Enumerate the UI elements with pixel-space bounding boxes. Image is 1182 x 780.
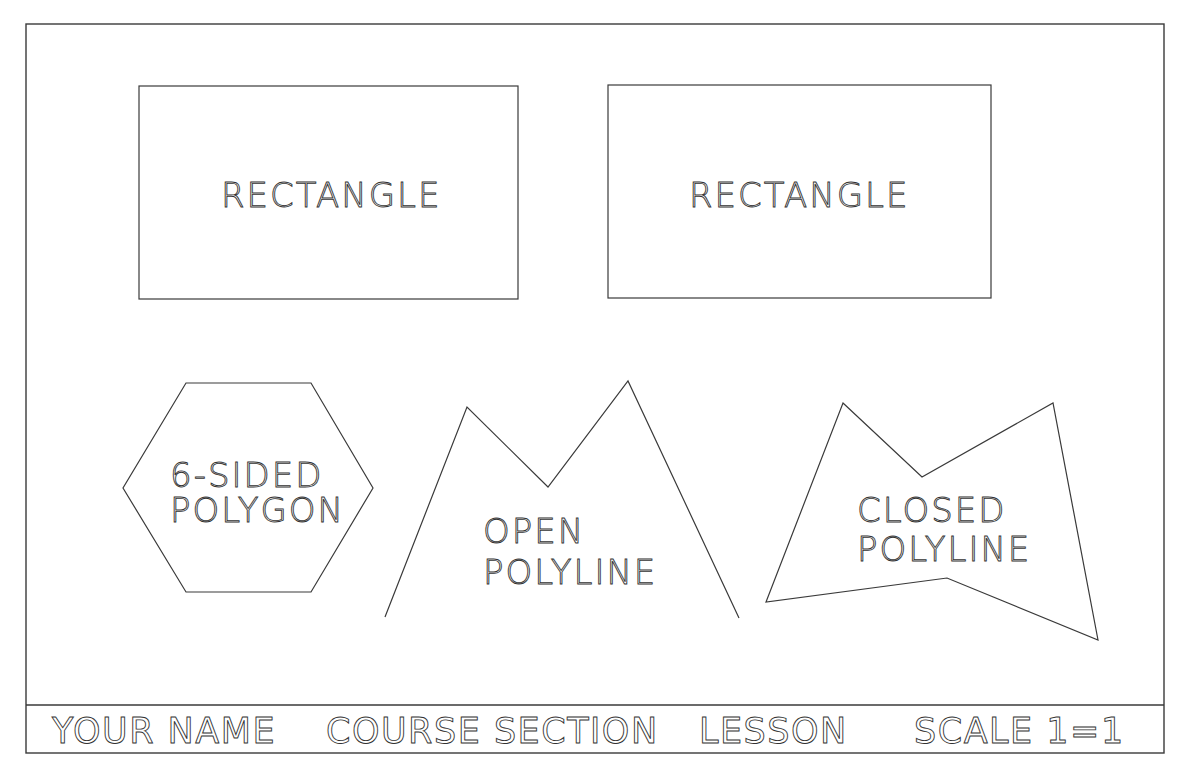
cad-drawing-sheet: RECTANGLE RECTANGLE 6-SIDED POLYGON OPEN… [0,0,1182,780]
rectangle-2[interactable]: RECTANGLE [608,85,991,298]
hexagon-polygon[interactable]: 6-SIDED POLYGON [123,383,373,592]
title-field-scale: SCALE 1=1 [914,711,1125,751]
title-field-lesson: LESSON [699,711,848,751]
title-block: YOUR NAME COURSE SECTION LESSON SCALE 1=… [51,711,1125,751]
closed-polyline-label-line-2: POLYLINE [857,529,1031,569]
closed-polyline[interactable]: CLOSED POLYLINE [766,403,1098,640]
polygon-label-line-1: 6-SIDED [170,455,323,495]
sheet-border [26,24,1164,753]
rectangle-label: RECTANGLE [689,175,909,215]
rectangle-label: RECTANGLE [221,175,441,215]
open-polyline[interactable]: OPEN POLYLINE [385,381,739,618]
polygon-label-line-2: POLYGON [170,490,345,530]
rectangle-1[interactable]: RECTANGLE [139,86,518,299]
open-polyline-label-line-2: POLYLINE [483,552,657,592]
title-field-your-name: YOUR NAME [51,711,276,751]
title-field-course-section: COURSE SECTION [326,711,659,751]
open-polyline-label-line-1: OPEN [483,511,585,551]
closed-polyline-label-line-1: CLOSED [857,490,1006,530]
